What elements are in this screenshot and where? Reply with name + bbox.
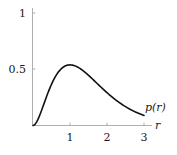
- curve-label: p(r): [145, 101, 166, 114]
- y-tick-label-1: 1: [19, 7, 26, 20]
- x-tick-label-3: 3: [141, 131, 148, 144]
- x-axis-label: r: [155, 119, 161, 132]
- x-tick-label-2: 2: [104, 131, 111, 144]
- y-tick-label-05: 0.5: [9, 63, 27, 76]
- x-tick-label-1: 1: [67, 131, 74, 144]
- p-of-r-curve: [33, 65, 144, 126]
- chart: 1 0.5 1 2 3 r p(r): [0, 0, 177, 155]
